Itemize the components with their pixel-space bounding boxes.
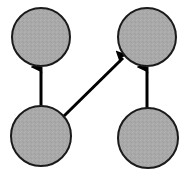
node-bottom-left[interactable] [11, 106, 71, 166]
node-top-right[interactable] [118, 8, 176, 66]
graph-diagram [0, 0, 188, 176]
diagram-canvas [0, 0, 188, 176]
node-top-left[interactable] [12, 8, 70, 66]
node-bottom-right[interactable] [118, 108, 178, 168]
